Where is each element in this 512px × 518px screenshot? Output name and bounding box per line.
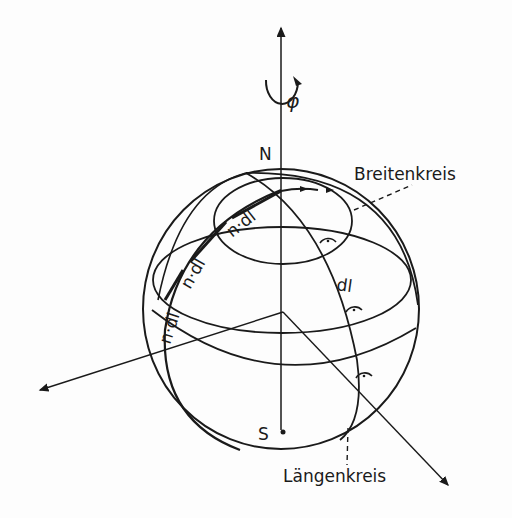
- south-pole-label: S: [258, 424, 269, 444]
- latitude-element-label-2: n·dl: [176, 255, 209, 292]
- figure-canvas: φ N Breitenkreis dl: [0, 0, 512, 518]
- right-angle-marks: [320, 238, 372, 378]
- latitude-element-label-1: n·dl: [222, 206, 259, 241]
- longitude-element-label: dl: [335, 274, 353, 296]
- rotation-angle-label: φ: [286, 89, 299, 113]
- north-pole-label: N: [259, 144, 272, 164]
- latitude-circle-label: Breitenkreis: [354, 164, 456, 184]
- sphere-diagram: φ N Breitenkreis dl: [0, 0, 512, 518]
- latitude-direction-arrows: [281, 186, 334, 193]
- south-pole-dot: [281, 430, 286, 435]
- longitude-circle-label: Längenkreis: [283, 466, 386, 486]
- latitude-leader-line: [354, 185, 412, 210]
